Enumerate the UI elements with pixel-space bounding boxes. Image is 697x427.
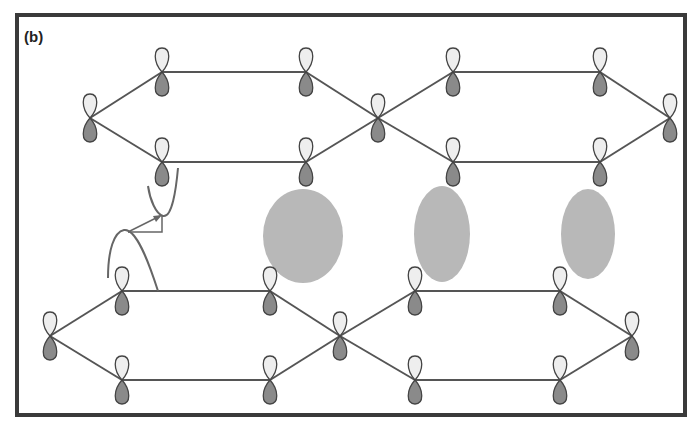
bond-line [560, 291, 632, 336]
bond-line [378, 72, 453, 118]
arrow-head-icon [153, 215, 162, 222]
bond-line [90, 72, 162, 118]
bond-line [378, 118, 453, 162]
p-orbital-icon [371, 94, 385, 142]
p-orbital-icon [333, 312, 347, 360]
bond-line [600, 118, 670, 162]
bond-line [50, 336, 122, 380]
p-orbital-icon [43, 312, 57, 360]
bond-line [306, 72, 378, 118]
p-orbital-icon [83, 94, 97, 142]
p-orbital-icon [663, 94, 677, 142]
bond-line [90, 118, 162, 162]
bond-line [340, 336, 415, 380]
molecular-diagram [0, 0, 697, 427]
bond-line [600, 72, 670, 118]
bond-line [270, 291, 340, 336]
p-orbital-icon [625, 312, 639, 360]
density-oval [414, 186, 470, 282]
bond-line [306, 118, 378, 162]
bond-line [340, 291, 415, 336]
bond-line [270, 336, 340, 380]
bond-line [560, 336, 632, 380]
density-oval [561, 189, 615, 279]
bond-line [50, 291, 122, 336]
